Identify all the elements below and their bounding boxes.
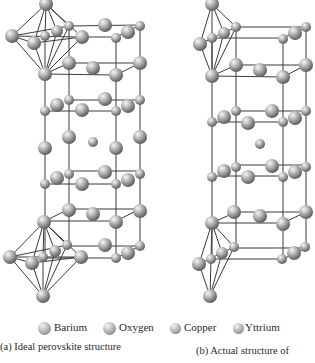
legend-label-barium: Barium [54, 321, 87, 333]
ideal-perovskite-atoms [3, 0, 147, 303]
copper-sphere-icon [170, 323, 181, 334]
caption-a: (a) Ideal perovskite structure [0, 341, 121, 352]
oxygen-sphere-icon [103, 322, 116, 335]
legend-label-yttrium: Yttrium [245, 321, 280, 333]
barium-sphere-icon [38, 322, 51, 335]
actual-structure-atoms [192, 0, 313, 303]
legend-label-oxygen: Oxygen [119, 321, 154, 333]
caption-b: (b) Actual structure of [196, 345, 289, 356]
crystal-structure-figure [0, 0, 315, 363]
yttrium-sphere-icon [233, 323, 244, 334]
legend-label-copper: Copper [184, 321, 216, 333]
